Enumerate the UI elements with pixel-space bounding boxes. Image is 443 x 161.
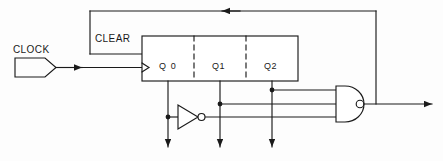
circuit-schematic [0,0,443,161]
inverter-gate [178,105,198,129]
junction-dot-q1 [218,102,223,107]
clock-input-terminal [15,58,56,77]
inverter-bubble-icon [198,114,205,121]
q2-label: Q2 [264,61,277,71]
nand-bubble-icon [356,100,364,108]
clock-label: CLOCK [13,44,49,55]
junction-dot-q2 [270,88,275,93]
circuit-diagram-canvas: CLOCK CLEAR Q 0 Q1 Q2 [0,0,443,161]
q0-label: Q 0 [159,61,177,71]
q1-label: Q1 [212,61,225,71]
junction-dot-q0 [166,115,171,120]
register-block [142,36,298,81]
clear-label: CLEAR [95,33,130,44]
